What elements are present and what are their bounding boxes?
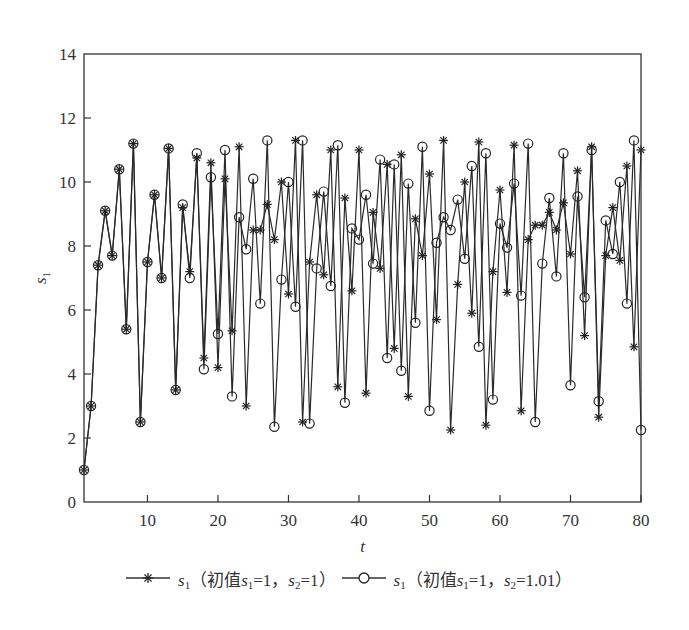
star-marker-icon: [432, 315, 441, 324]
x-tick-label: 20: [209, 511, 226, 530]
y-axis-label: s1: [31, 272, 52, 284]
star-marker-icon: [594, 413, 603, 422]
star-marker-icon: [404, 392, 413, 401]
star-marker-icon: [206, 158, 215, 167]
star-marker-icon: [559, 198, 568, 207]
star-marker-icon: [228, 326, 237, 335]
x-axis-ticks: 1020304050607080: [139, 495, 650, 530]
star-marker-icon: [362, 389, 371, 398]
x-tick-label: 50: [421, 511, 438, 530]
star-marker-icon: [369, 208, 378, 217]
star-marker-icon: [347, 286, 356, 295]
x-tick-label: 30: [280, 511, 297, 530]
x-tick-label: 80: [633, 511, 650, 530]
star-marker-icon: [411, 214, 420, 223]
star-marker-icon: [495, 186, 504, 195]
legend-item-circle-series: s1（初值s1=1，s2=1.01）: [340, 566, 573, 591]
legend: s1（初值s1=1，s2=1） s1（初值s1=1，s2=1.01）: [124, 566, 576, 590]
y-tick-label: 6: [68, 301, 77, 320]
series-markers-circle: [79, 136, 645, 475]
legend-label-star-series: s1（初值s1=1，s2=1）: [178, 566, 336, 591]
legend-label-circle-series: s1（初值s1=1，s2=1.01）: [394, 566, 573, 591]
plot-markers: [79, 136, 645, 475]
line-chart: 1020304050607080 02468101214 t s1: [0, 0, 689, 630]
star-marker-icon: [221, 174, 230, 183]
star-marker-icon: [622, 162, 631, 171]
y-tick-label: 14: [59, 45, 77, 64]
star-marker-icon: [608, 203, 617, 212]
star-marker-icon: [510, 141, 519, 150]
star-marker-icon: [538, 221, 547, 230]
x-axis-label: t: [360, 537, 366, 556]
star-marker-icon: [488, 267, 497, 276]
star-marker-icon: [333, 382, 342, 391]
star-marker-icon: [340, 194, 349, 203]
y-tick-label: 8: [68, 237, 77, 256]
plot-lines: [84, 140, 641, 470]
star-marker-icon: [629, 342, 638, 351]
x-tick-label: 70: [562, 511, 579, 530]
star-marker-icon: [256, 226, 265, 235]
star-marker-icon: [425, 170, 434, 179]
star-marker-icon: [390, 344, 399, 353]
series-markers-star: [80, 136, 646, 475]
star-marker-icon: [270, 235, 279, 244]
legend-item-star-series: s1（初值s1=1，s2=1）: [124, 566, 336, 591]
star-marker-icon: [213, 363, 222, 372]
star-marker-icon: [580, 331, 589, 340]
y-tick-label: 10: [59, 173, 76, 192]
x-tick-label: 60: [491, 511, 508, 530]
x-tick-label: 40: [350, 511, 367, 530]
star-marker-icon: [545, 208, 554, 217]
star-marker-icon: [439, 136, 448, 145]
star-marker-icon: [503, 288, 512, 297]
star-marker-icon: [481, 421, 490, 430]
y-tick-label: 12: [59, 109, 76, 128]
y-tick-label: 2: [68, 429, 77, 448]
star-marker-icon: [397, 150, 406, 159]
star-marker-icon: [418, 251, 427, 260]
star-marker-icon: [552, 226, 561, 235]
star-marker-icon: [467, 309, 476, 318]
y-tick-label: 4: [68, 365, 77, 384]
y-axis-ticks: 02468101214: [59, 45, 91, 512]
star-marker-icon: [284, 290, 293, 299]
series-line-star: [84, 140, 641, 470]
star-marker-icon: [354, 146, 363, 155]
star-marker-icon: [453, 280, 462, 289]
star-marker-icon: [446, 426, 455, 435]
star-marker-icon: [566, 250, 575, 259]
star-marker-icon: [199, 354, 208, 363]
star-marker-icon: [235, 142, 244, 151]
star-marker-icon: [474, 138, 483, 147]
star-marker-icon: [124, 568, 172, 588]
star-marker-icon: [460, 178, 469, 187]
star-marker-icon: [524, 235, 533, 244]
series-line-circle: [84, 140, 641, 470]
star-marker-icon: [242, 402, 251, 411]
y-tick-label: 0: [68, 493, 77, 512]
x-tick-label: 10: [139, 511, 156, 530]
star-marker-icon: [573, 166, 582, 175]
star-marker-icon: [517, 406, 526, 415]
star-marker-icon: [263, 200, 272, 209]
circle-marker-icon: [340, 568, 388, 588]
